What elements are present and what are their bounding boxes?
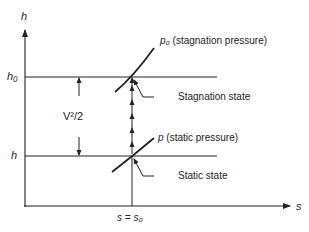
stagnation-state-leader <box>134 80 154 97</box>
p-symbol: p <box>158 132 164 143</box>
static-state-label: Static state <box>178 171 227 181</box>
static-pressure-curve <box>112 138 154 172</box>
static-pressure-label: p (static pressure) <box>158 133 238 143</box>
p0-symbol: p₀ <box>160 35 170 46</box>
y-axis-label: h <box>21 11 27 22</box>
h0-label: h₀ <box>7 71 18 82</box>
entropy-equal-label: s = s₀ <box>117 213 143 223</box>
x-axis-label: s <box>296 201 302 212</box>
p-description: (static pressure) <box>166 132 238 143</box>
kinetic-energy-label: V²/2 <box>63 111 83 122</box>
stagnation-pressure-curve <box>115 48 154 92</box>
stagnation-pressure-label: p₀ (stagnation pressure) <box>160 36 267 46</box>
h-s-diagram: h s h₀ h V²/2 p₀ (stagnation pressure) S… <box>0 0 309 232</box>
static-state-leader <box>134 159 154 176</box>
stagnation-state-label: Stagnation state <box>178 92 250 102</box>
h-label: h <box>11 150 17 161</box>
p0-description: (stagnation pressure) <box>173 35 268 46</box>
